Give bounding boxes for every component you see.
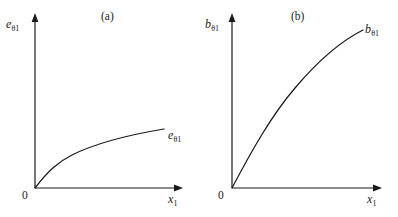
data-curve-a xyxy=(35,129,164,188)
y-axis-arrowhead-b xyxy=(229,13,236,22)
chart-canvas-a xyxy=(0,0,199,217)
y-axis-label-b: bθ1 xyxy=(205,18,219,30)
x-axis-arrowhead-b xyxy=(373,185,382,192)
curve-label-b: bθ1 xyxy=(365,23,379,35)
x-axis-label-b: x1 xyxy=(367,193,376,205)
x-axis-arrowhead-a xyxy=(174,185,183,192)
figure-container: (a) eθ1 x1 0 eθ1 (b) b xyxy=(0,0,398,217)
origin-label-b: 0 xyxy=(218,190,224,202)
chart-panel-b: (b) bθ1 x1 0 bθ1 xyxy=(199,0,398,217)
data-curve-b xyxy=(232,30,363,188)
curve-label-a: eθ1 xyxy=(168,129,181,141)
y-axis-arrowhead-a xyxy=(32,13,39,22)
chart-panel-a: (a) eθ1 x1 0 eθ1 xyxy=(0,0,199,217)
panel-title-b: (b) xyxy=(291,11,304,23)
x-axis-label-a: x1 xyxy=(168,193,177,205)
origin-label-a: 0 xyxy=(22,190,28,202)
y-axis-label-a: eθ1 xyxy=(6,18,19,30)
panel-title-a: (a) xyxy=(101,11,114,23)
